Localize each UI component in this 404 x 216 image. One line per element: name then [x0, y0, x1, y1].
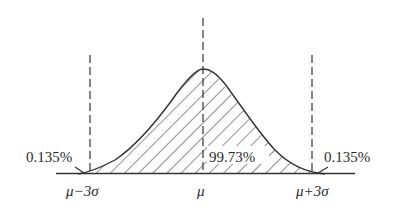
center-region-label: 99.73%	[209, 149, 255, 165]
normal-distribution-diagram: 0.135% 99.73% 0.135% μ−3σ μ μ+3σ	[0, 0, 404, 216]
plus-3sigma-label: μ+3σ	[295, 183, 329, 199]
left-tail-pointer	[75, 167, 84, 173]
mean-label: μ	[196, 183, 205, 199]
left-tail-label: 0.135%	[26, 149, 72, 165]
minus-3sigma-label: μ−3σ	[65, 183, 99, 199]
right-tail-pointer	[318, 167, 328, 173]
right-tail-label: 0.135%	[324, 149, 370, 165]
